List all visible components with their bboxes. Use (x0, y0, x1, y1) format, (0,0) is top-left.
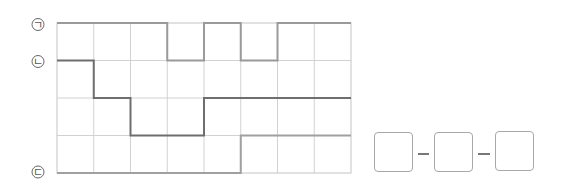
svg-text:ㄴ: ㄴ (33, 56, 43, 69)
path-line-a (57, 23, 351, 61)
label-line-b: ㄴ (32, 56, 44, 69)
label-line-c: ㄷ (32, 166, 44, 179)
answer-box-1[interactable] (374, 132, 413, 172)
label-line-a: ㄱ (32, 19, 44, 32)
separator-dash-2 (478, 153, 490, 155)
separator-dash-1 (418, 153, 429, 155)
grid-diagram: ㄱ ㄴ ㄷ (0, 0, 562, 190)
answer-box-3[interactable] (495, 131, 534, 171)
svg-text:ㄷ: ㄷ (33, 166, 43, 179)
svg-text:ㄱ: ㄱ (33, 19, 43, 32)
answer-box-2[interactable] (434, 132, 473, 172)
